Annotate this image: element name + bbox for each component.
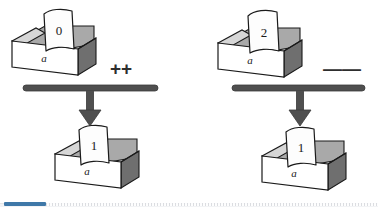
- down-arrow-right: [289, 91, 311, 126]
- source-box-left-label: a: [41, 52, 47, 64]
- source-paper-right-value: 2: [261, 25, 268, 40]
- source-box-right-label: a: [247, 54, 253, 66]
- source-paper-left-value: 0: [56, 23, 63, 38]
- horizontal-scrollbar[interactable]: [0, 200, 378, 209]
- source-paper-right: 2: [248, 10, 279, 53]
- result-paper-right: 1: [286, 127, 316, 167]
- decrement-operator-label: ——: [323, 59, 361, 78]
- source-paper-left: 0: [44, 9, 74, 51]
- result-box-left-label: a: [84, 165, 90, 177]
- result-paper-right-value: 1: [298, 140, 305, 155]
- scrollbar-track-texture: [46, 203, 378, 206]
- right-panel: a 2 a: [218, 10, 365, 190]
- result-paper-left: 1: [79, 125, 109, 165]
- result-paper-left-value: 1: [91, 138, 98, 153]
- figure-page: a 0 a: [0, 0, 378, 209]
- result-box-right-label: a: [291, 167, 297, 179]
- down-arrow-left: [79, 91, 101, 126]
- operator-diagram: a 0 a: [0, 0, 378, 209]
- transform-bar-left: [23, 85, 158, 91]
- scrollbar-thumb[interactable]: [4, 202, 46, 206]
- transform-bar-right: [232, 85, 365, 91]
- increment-operator-label: ++: [110, 59, 132, 78]
- left-panel: a 0 a: [12, 9, 158, 188]
